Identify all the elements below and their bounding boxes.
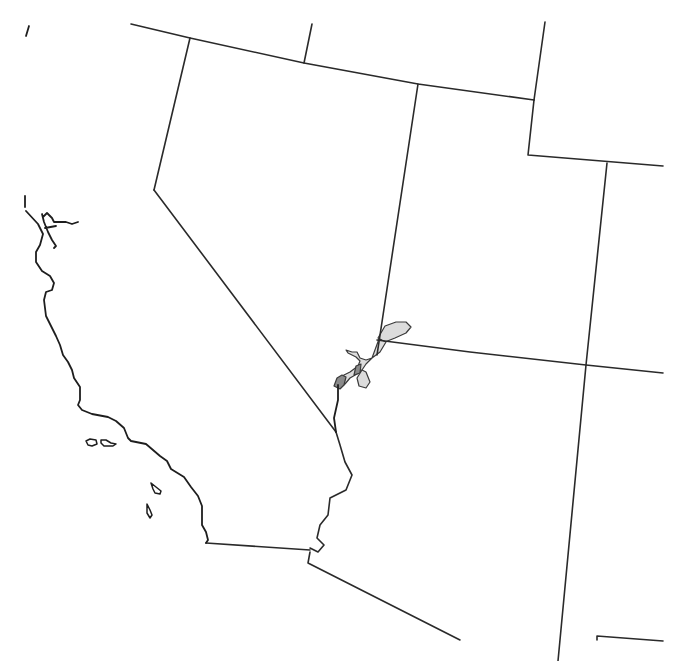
new-mexico-mexico-border <box>597 636 663 641</box>
california-mexico-border <box>206 543 310 550</box>
nevada-utah-border <box>377 84 418 355</box>
northern-border-line <box>131 24 534 100</box>
utah-wyoming-border <box>528 100 663 166</box>
california-arizona-border <box>310 432 352 552</box>
southwest-us-map <box>0 0 679 661</box>
channel-island-santa-rosa <box>86 439 97 446</box>
arizona-utah-border <box>377 340 663 373</box>
map-container <box>0 0 679 661</box>
coastline-layer <box>25 26 338 543</box>
species-range-layer <box>334 322 411 389</box>
northern-tip-fragment <box>26 26 29 36</box>
california-nevada-diagonal-border <box>154 190 336 432</box>
utah-colorado-border <box>558 163 607 661</box>
oregon-idaho-border <box>304 24 312 63</box>
range-colorado-river-dark-bend <box>334 375 346 389</box>
california-nevada-north-border <box>154 38 190 190</box>
channel-islands-layer <box>86 439 161 518</box>
channel-island-santa-cruz <box>101 440 116 446</box>
arizona-mexico-border <box>308 552 460 640</box>
idaho-wyoming-border <box>534 22 545 100</box>
state-borders-layer <box>131 22 663 661</box>
channel-island-san-clemente <box>147 504 152 518</box>
range-lake-mead-lobe <box>378 322 411 342</box>
san-francisco-bay <box>42 213 78 248</box>
lower-colorado-river-boundary <box>334 385 338 432</box>
channel-island-santa-catalina <box>151 483 161 494</box>
bay-area-coast <box>26 211 208 543</box>
